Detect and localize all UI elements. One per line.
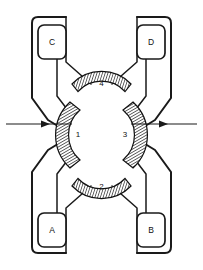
pole-label-1: 1 (76, 130, 81, 139)
coil-box-a[interactable]: A (38, 213, 66, 247)
coil-box-b[interactable]: B (137, 213, 165, 247)
coil-box-d[interactable]: D (137, 25, 165, 59)
figure-canvas: 4 2 1 3 C D A (0, 0, 203, 270)
pole-segment-1: 1 (56, 102, 81, 168)
coil-box-c[interactable]: C (38, 25, 66, 59)
actuator-schematic: 4 2 1 3 C D A (0, 0, 203, 270)
coil-label-b: B (148, 225, 154, 235)
pole-label-2: 2 (99, 182, 104, 191)
pole-segment-3: 3 (123, 102, 148, 168)
coil-label-a: A (49, 225, 55, 235)
pole-label-3: 3 (123, 130, 128, 139)
coil-label-d: D (148, 37, 154, 47)
pole-label-4: 4 (99, 79, 104, 88)
coil-label-c: C (49, 37, 55, 47)
